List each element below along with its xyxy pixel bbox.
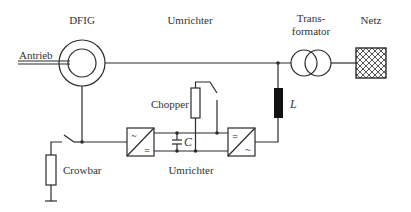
grid-icon xyxy=(356,48,386,78)
netz-label: Netz xyxy=(361,14,382,26)
svg-text:=: = xyxy=(232,131,238,142)
rotor-side-converter-icon: ~ = xyxy=(127,128,154,156)
chopper-resistor-icon xyxy=(191,88,200,118)
crowbar-switch-icon xyxy=(51,135,82,155)
capacitor-icon xyxy=(172,131,182,153)
transformer-icon xyxy=(291,50,331,76)
chopper-label: Chopper xyxy=(151,98,189,110)
capacitor-label: C xyxy=(184,135,193,149)
chopper-node xyxy=(194,149,198,153)
crowbar-label: Crowbar xyxy=(63,164,102,176)
svg-text:~: ~ xyxy=(245,144,251,155)
svg-text:=: = xyxy=(144,145,150,156)
inductor-label: L xyxy=(289,97,297,111)
antrieb-label: Antrieb xyxy=(19,49,53,61)
umrichter-bottom-label: Umrichter xyxy=(168,164,214,176)
dfig-diagram: DFIG Antrieb Umrichter Trans- formator N… xyxy=(0,0,411,212)
inductor-icon xyxy=(274,88,283,118)
umrichter-top-label: Umrichter xyxy=(167,14,213,26)
drive-shaft xyxy=(18,61,70,64)
transformator-label-line1: Trans- xyxy=(297,12,326,24)
grid-side-converter-icon: = ~ xyxy=(228,128,255,156)
dfig-label: DFIG xyxy=(69,14,95,26)
transformator-label-line2: formator xyxy=(292,25,331,37)
ground-icon xyxy=(45,185,57,201)
svg-text:~: ~ xyxy=(131,130,137,141)
dfig-generator-icon xyxy=(59,40,105,86)
crowbar-resistor-icon xyxy=(46,155,56,185)
inductor-wire-bottom xyxy=(255,118,278,142)
